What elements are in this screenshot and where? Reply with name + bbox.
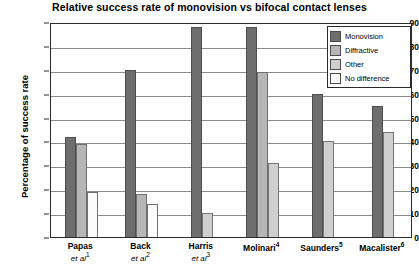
gridline [51,96,411,97]
legend-item-mono[interactable]: Monovision [330,29,410,43]
x-axis-label-name: Macalister6 [352,241,412,253]
x-axis-label-ref: 6 [401,241,405,248]
y-axis-tick-mark [44,46,49,47]
x-axis-label-ref: 4 [276,241,280,248]
legend-swatch-icon [330,31,341,42]
chart-title: Relative success rate of monovision vs b… [0,1,419,13]
legend-swatch-icon [330,73,341,84]
y-axis-tick-mark [44,190,49,191]
x-axis-label: Molinari4 [231,241,291,253]
y-axis-tick-mark [44,166,49,167]
x-axis-label-citation: et al1 [50,251,110,263]
legend-item-nodiff[interactable]: No difference [330,71,410,85]
bar-diff [257,72,268,237]
bar-group [191,24,213,237]
chart-container: Relative success rate of monovision vs b… [0,0,419,272]
bar-diff [136,194,147,237]
bar-mono [191,27,202,237]
bar-other [323,141,334,237]
x-axis-label-ref: 2 [146,251,150,258]
legend-label: Other [345,60,364,69]
x-axis-label-ref: 5 [339,241,343,248]
y-axis-tick-mark [44,214,49,215]
bar-mono [65,137,76,237]
y-axis-tick-mark [44,94,49,95]
bar-mono [312,94,323,237]
legend-item-diff[interactable]: Diffractive [330,43,410,57]
bar-diff [76,144,87,237]
x-axis-label-citation: et al2 [110,251,170,263]
legend-label: Monovision [345,32,383,41]
legend-swatch-icon [330,59,341,70]
bar-other [383,132,394,237]
y-axis-tick-mark [44,23,49,24]
x-axis-label-ref: 1 [86,251,90,258]
legend-item-other[interactable]: Other [330,57,410,71]
x-axis-label-citation: et al3 [171,251,231,263]
x-axis-label: Macalister6 [352,241,412,253]
bar-nodiff [87,192,98,237]
bar-nodiff [147,204,158,237]
bar-other [268,163,279,237]
x-axis-label-name: Molinari4 [231,241,291,253]
y-axis-tick-mark [44,118,49,119]
x-axis-label-ref: 3 [207,251,211,258]
gridline [51,120,411,121]
x-axis-label: Harriset al3 [171,241,231,263]
gridline [51,167,411,168]
bar-mono [246,27,257,237]
legend-label: Diffractive [345,46,378,55]
x-axis-label-name: Saunders5 [291,241,351,253]
gridline [51,191,411,192]
chart-legend: MonovisionDiffractiveOtherNo difference [327,26,411,88]
y-axis-tick-mark [44,238,49,239]
legend-swatch-icon [330,45,341,56]
x-axis-label-name: Harris [171,241,231,251]
bar-group [65,24,98,237]
y-axis-title: Percentage of success rate [19,37,30,237]
bar-other [202,213,213,237]
x-axis-label: Saunders5 [291,241,351,253]
x-axis-label: Papaset al1 [50,241,110,263]
x-axis-label-name: Papas [50,241,110,251]
bar-group [246,24,279,237]
bar-mono [372,106,383,237]
y-axis-tick-mark [44,70,49,71]
bar-mono [125,70,136,237]
legend-label: No difference [345,74,389,83]
bar-group [125,24,158,237]
x-axis-label: Backet al2 [110,241,170,263]
gridline [51,143,411,144]
x-axis-label-name: Back [110,241,170,251]
y-axis-tick-mark [44,142,49,143]
gridline [51,215,411,216]
